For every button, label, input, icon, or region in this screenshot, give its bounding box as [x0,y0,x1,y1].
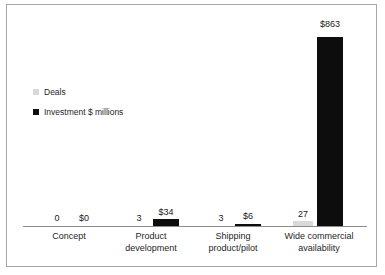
x-axis-label-line: Product [105,230,197,242]
bar-investment-3 [317,37,343,227]
x-axis-label-line: Concept [23,230,115,242]
bar-value-label-investment-2: $6 [229,211,267,221]
x-axis-category-labels: ConceptProductdevelopmentShippingproduct… [7,230,376,266]
bar-value-label-investment-1: $34 [147,207,185,217]
x-axis-label-line: Wide commercial [265,230,373,242]
plot-area: Deals Investment $ millions 0$03$343$627… [7,5,376,266]
chart-frame: Deals Investment $ millions 0$03$343$627… [6,4,377,267]
x-axis-label-3: Wide commercialavailability [265,230,373,254]
x-axis-label-0: Concept [23,230,115,242]
x-axis-label-line: availability [265,242,373,254]
bar-value-label-investment-3: $863 [311,19,349,29]
x-axis-line [23,226,367,227]
x-axis-label-line: development [105,242,197,254]
bar-value-label-investment-0: $0 [65,213,103,223]
x-axis-label-1: Productdevelopment [105,230,197,254]
bar-value-label-deals-3: 27 [287,209,319,219]
bars-layer: 0$03$343$627$863 [7,5,376,227]
